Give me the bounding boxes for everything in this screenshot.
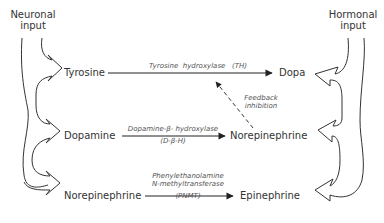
- hormonal-input-arrows: [315, 38, 364, 201]
- neuronal-input-arrows: [21, 38, 62, 195]
- enzyme-th-label: Tyrosine hydroxylase (TH): [128, 63, 268, 70]
- enzyme-dbh-label: Dopamine-β- hydroxylase (D-β-H): [120, 126, 226, 145]
- hormonal-input-label: Hormonal input: [325, 10, 381, 31]
- neuronal-input-label: Neuronal input: [8, 10, 58, 31]
- node-epinephrine: Epinephrine: [240, 191, 300, 201]
- node-norepinephrine-low: Norepinephrine: [64, 191, 141, 201]
- node-dopa: Dopa: [279, 68, 305, 78]
- feedback-inhibition-label: Feedback inhibition: [236, 95, 286, 110]
- node-dopamine: Dopamine: [64, 131, 115, 141]
- node-norepinephrine-mid: Norepinephrine: [230, 131, 307, 141]
- enzyme-pnmt-label: Phenylethanolamine N-methyltransferase (…: [140, 173, 236, 200]
- node-tyrosine: Tyrosine: [64, 68, 105, 78]
